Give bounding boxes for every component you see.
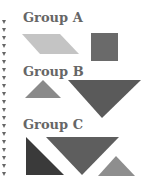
shapes-canvas	[0, 0, 151, 185]
small-gray-triangle-shape	[98, 156, 135, 176]
small-triangle-shape	[25, 80, 61, 98]
square-shape	[91, 33, 118, 61]
large-inverted-triangle-shape	[68, 80, 141, 118]
parallelogram-shape	[22, 34, 79, 54]
